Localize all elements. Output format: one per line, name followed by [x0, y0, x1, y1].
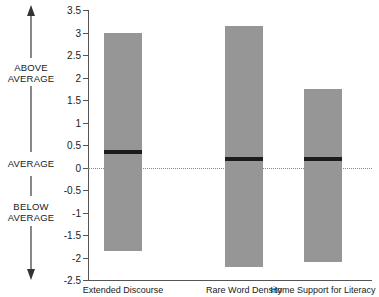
median-marker	[304, 157, 342, 161]
label-below-average: BELOW AVERAGE	[0, 201, 62, 223]
y-tick-label: 3	[75, 27, 81, 38]
y-tick-mark	[83, 235, 88, 236]
y-tick-mark	[83, 55, 88, 56]
label-below-average-line1: BELOW	[0, 201, 62, 212]
category-label: Extended Discourse	[53, 285, 193, 295]
y-tick-label: -2.5	[64, 275, 81, 286]
y-tick-label: -1	[72, 207, 81, 218]
y-tick-mark	[83, 10, 88, 11]
median-marker	[104, 150, 142, 154]
chart-figure: ABOVE AVERAGE AVERAGE BELOW AVERAGE 3.53…	[0, 0, 379, 297]
y-tick-label: 3.5	[67, 5, 81, 16]
y-tick-mark	[83, 213, 88, 214]
y-tick-mark	[83, 190, 88, 191]
x-axis-baseline	[88, 280, 372, 281]
annotation-axis: ABOVE AVERAGE AVERAGE BELOW AVERAGE	[0, 0, 62, 290]
y-tick-mark	[83, 258, 88, 259]
y-tick-label: -2	[72, 252, 81, 263]
annotation-arrow-icon	[0, 0, 62, 290]
y-tick-mark	[83, 280, 88, 281]
y-tick-label: 2.5	[67, 50, 81, 61]
label-average: AVERAGE	[0, 158, 62, 169]
plot-area: 3.532.521.510.50-0.5-1-1.5-2-2.5	[88, 10, 372, 280]
label-above-average-line2: AVERAGE	[0, 73, 62, 84]
range-bar	[225, 26, 263, 267]
label-above-average-line1: ABOVE	[0, 62, 62, 73]
y-tick-label: 0.5	[67, 140, 81, 151]
y-tick-mark	[83, 100, 88, 101]
median-marker	[225, 157, 263, 161]
y-tick-label: -0.5	[64, 185, 81, 196]
range-bar	[104, 33, 142, 251]
y-tick-mark	[83, 78, 88, 79]
y-tick-mark	[83, 145, 88, 146]
y-axis-spine	[88, 10, 89, 280]
category-label: Home Support for Literacy	[253, 285, 379, 295]
y-tick-label: -1.5	[64, 230, 81, 241]
y-tick-label: 0	[75, 162, 81, 173]
y-tick-label: 1.5	[67, 95, 81, 106]
label-above-average: ABOVE AVERAGE	[0, 62, 62, 84]
range-bar	[304, 89, 342, 262]
y-tick-label: 1	[75, 117, 81, 128]
y-tick-mark	[83, 123, 88, 124]
y-tick-mark	[83, 33, 88, 34]
y-tick-label: 2	[75, 72, 81, 83]
label-below-average-line2: AVERAGE	[0, 212, 62, 223]
